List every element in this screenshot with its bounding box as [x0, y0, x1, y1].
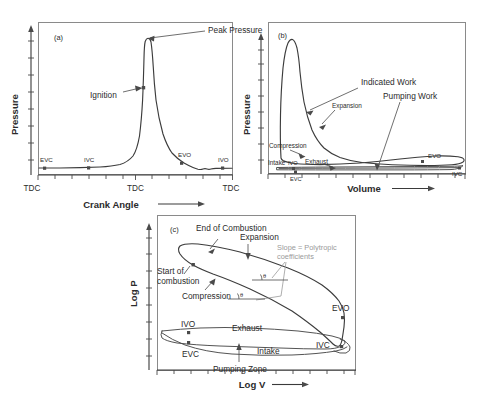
panel-a-ivc-label: IVC — [84, 156, 95, 163]
panel-b-ivo-marker — [292, 167, 295, 170]
panel-a-ivo-marker — [221, 167, 224, 170]
panel-b-y-axis — [258, 33, 264, 174]
panel-c-ivo-marker — [187, 331, 190, 334]
panel-a-xtick-tdc-right: TDC — [223, 184, 240, 193]
panel-b-exhaust-label: Exhaust — [305, 158, 328, 165]
panel-c-theta-lower-symbol: θ — [240, 292, 243, 298]
panel-c-compression-label: Compression — [182, 291, 231, 301]
panel-c-end-combustion-arrowhead — [208, 249, 215, 255]
panel-b-ivc-label: IVC — [452, 170, 463, 177]
panel-c-start-combustion-leader — [184, 266, 190, 274]
panel-b-intake-label: Intake — [268, 159, 286, 166]
panel-c-evo-label: EVO — [332, 303, 350, 313]
panel-c-y-axis — [146, 223, 152, 370]
panel-b-ivo-label: IVO — [288, 160, 298, 166]
panel-a-ivc-marker — [87, 166, 90, 169]
panel-c-xlabel: Log V — [239, 379, 266, 390]
panel-c-evc-label: EVC — [182, 349, 199, 359]
panel-b-evc-marker — [294, 171, 297, 174]
panel-b-compression-label: Compression — [269, 142, 307, 150]
panel-c-start-combustion-line2: combustion — [157, 276, 200, 286]
panel-b-evo-marker — [421, 160, 424, 163]
figure-root: Pressure TDC TDC TDC — [0, 0, 481, 393]
panel-c-expansion-label: Expansion — [240, 232, 279, 242]
panel-c-end-combustion-leader — [210, 239, 218, 249]
panel-c-theta-upper-symbol: θ — [263, 273, 266, 279]
panel-b-xlabel-group: Volume — [347, 183, 435, 194]
panel-c-start-combustion-line1: Start of — [157, 266, 184, 276]
panel-c-ylabel: Log P — [128, 280, 139, 307]
panel-c-expansion-arrowhead — [245, 253, 250, 260]
panel-b-pumping-loop-inner — [279, 168, 458, 169]
panel-a-ignition-label: Ignition — [90, 90, 117, 100]
panel-b-expansion-label: Expansion — [332, 102, 362, 110]
panel-a: Pressure TDC TDC TDC — [9, 23, 263, 211]
panel-b-ylabel: Pressure — [241, 94, 252, 135]
panel-c: Log P Log V — [128, 216, 356, 391]
panel-b-label: (b) — [278, 31, 287, 40]
panel-b-evo-label: EVO — [428, 152, 441, 159]
panel-a-ylabel: Pressure — [9, 94, 20, 135]
panel-a-evo-label: EVO — [178, 151, 191, 158]
panel-c-ivc-label: IVC — [316, 340, 330, 350]
panel-a-evc-marker — [43, 167, 46, 170]
panel-a-pressure-curve — [39, 38, 232, 169]
panel-a-ignition-arrowhead — [135, 86, 143, 92]
panel-a-y-axis — [28, 25, 34, 175]
panel-a-xlabel-group: Crank Angle — [83, 199, 205, 210]
panel-b-indicated-work-label: Indicated Work — [361, 77, 417, 87]
panel-c-exhaust-label: Exhaust — [232, 323, 263, 333]
panel-c-slope-label-line2: coefficients — [277, 252, 314, 261]
panel-c-start-combustion-marker — [192, 263, 195, 266]
panel-c-pumping-zone-label: Pumping Zone — [213, 364, 267, 374]
panel-a-peak-leader — [150, 31, 205, 38]
panel-c-xlabel-group: Log V — [239, 379, 309, 390]
panel-a-label: (a) — [54, 33, 63, 42]
panel-a-ignition-marker — [142, 86, 145, 89]
panel-c-label: (c) — [170, 225, 179, 234]
panel-a-xtick-tdc-left: TDC — [24, 184, 41, 193]
panel-a-evc-label: EVC — [40, 156, 53, 163]
panel-c-slope-label-line1: Slope = Polytropic — [277, 243, 337, 252]
panel-a-peak-pressure-label: Peak Pressure — [208, 25, 263, 35]
panel-a-xtick-tdc-center: TDC — [127, 184, 144, 193]
engine-pressure-diagram-svg: Pressure TDC TDC TDC — [0, 0, 481, 393]
panel-b-pumping-work-label: Pumping Work — [383, 91, 438, 101]
panel-c-ivo-label: IVO — [181, 319, 196, 329]
panel-a-evo-marker — [180, 162, 183, 165]
panel-b-indicated-loop — [280, 39, 464, 165]
panel-c-ivc-marker — [340, 345, 343, 348]
panel-b: Pressure Volume — [241, 23, 466, 195]
panel-c-evc-marker — [187, 341, 190, 344]
panel-c-intake-label: Intake — [257, 346, 280, 356]
panel-c-evo-marker — [341, 316, 344, 319]
panel-a-ivo-label: IVO — [218, 156, 229, 163]
panel-b-expansion-arrowhead — [319, 125, 326, 131]
panel-a-x-axis — [38, 175, 233, 180]
panel-b-pumping-work-leader — [378, 102, 400, 167]
panel-b-evc-label: EVC — [290, 176, 302, 182]
panel-b-expansion-leader — [322, 110, 335, 124]
panel-a-xlabel: Crank Angle — [83, 199, 139, 210]
panel-c-theta-upper: θ — [252, 273, 288, 280]
panel-b-xlabel: Volume — [347, 183, 381, 194]
